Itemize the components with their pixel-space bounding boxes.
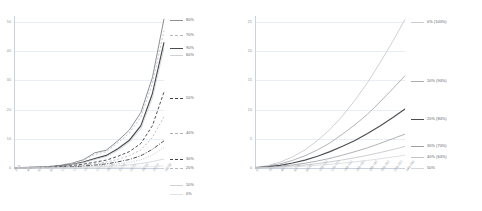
legend-swatch-icon xyxy=(170,168,183,169)
legend-item[interactable]: 30% (70%) xyxy=(411,144,447,148)
series-line xyxy=(255,109,405,168)
legend-item[interactable]: 70% xyxy=(170,33,194,37)
y-axis-tick-label: 10 xyxy=(7,137,11,141)
legend-swatch-icon xyxy=(170,194,183,195)
legend-label: 20% xyxy=(186,166,194,170)
legend-item[interactable]: 20% (80%) xyxy=(411,117,447,121)
legend-swatch-icon xyxy=(411,22,424,23)
legend-swatch-icon xyxy=(170,185,183,186)
series-line xyxy=(14,19,164,168)
legend-label: 0% xyxy=(186,192,192,196)
legend-label: 80% xyxy=(186,18,194,22)
legend-swatch-icon xyxy=(170,159,183,160)
legend-item[interactable]: 20% xyxy=(170,166,194,170)
legend-swatch-icon xyxy=(170,35,183,36)
y-axis-tick-label: 50 xyxy=(7,20,11,24)
legend-swatch-icon xyxy=(411,146,424,147)
series-layer xyxy=(255,16,405,168)
series-line xyxy=(255,76,405,168)
legend-item[interactable]: 80% xyxy=(170,18,194,22)
series-line xyxy=(14,48,164,168)
legend-item[interactable]: 90% xyxy=(170,46,194,50)
legend-swatch-icon xyxy=(411,157,424,158)
legend-label: 70% xyxy=(186,33,194,37)
legend-item[interactable]: 0% xyxy=(170,192,192,196)
legend-swatch-icon xyxy=(411,81,424,82)
legend-item[interactable]: 40% (60%) xyxy=(411,155,447,159)
legend-swatch-icon xyxy=(170,133,183,134)
y-axis-tick-label: 25 xyxy=(248,20,252,24)
y-axis-tick-label: 20 xyxy=(7,108,11,112)
series-line xyxy=(255,20,405,168)
legend-label: 10% xyxy=(186,183,194,187)
legend-item[interactable]: 10% (90%) xyxy=(411,79,447,83)
legend-item[interactable]: 30% xyxy=(170,157,194,161)
figure-root: 010203040502/134/85/78/611/1312/1219/051… xyxy=(0,0,482,211)
y-axis-tick-label: 20 xyxy=(248,49,252,53)
plot-area: 05101520250-120-2140-4160-6180-81100-101… xyxy=(255,16,405,168)
legend-label: 40% xyxy=(186,131,194,135)
legend-item[interactable]: 0% (100%) xyxy=(411,20,447,24)
legend-label: 10% (90%) xyxy=(427,79,447,83)
legend-swatch-icon xyxy=(170,98,183,99)
legend-swatch-icon xyxy=(170,48,183,49)
series-layer xyxy=(14,16,164,168)
legend-swatch-icon xyxy=(170,55,183,56)
plot-area: 010203040502/134/85/78/611/1312/1219/051… xyxy=(14,16,164,168)
y-axis-tick-label: 0 xyxy=(9,166,11,170)
legend-label: 60% xyxy=(186,53,194,57)
series-line xyxy=(14,31,164,168)
legend-label: 30% xyxy=(186,157,194,161)
legend-item[interactable]: 50% xyxy=(170,96,194,100)
y-axis-tick-label: 0 xyxy=(250,166,252,170)
legend-swatch-icon xyxy=(411,119,424,120)
legend-label: 0% (100%) xyxy=(427,20,447,24)
legend-swatch-icon xyxy=(170,20,183,21)
legend-item[interactable]: 60% xyxy=(170,53,194,57)
legend-item[interactable]: 40% xyxy=(170,131,194,135)
y-axis-tick-label: 30 xyxy=(7,78,11,82)
legend-label: 90% xyxy=(186,46,194,50)
legend-swatch-icon xyxy=(411,168,424,169)
legend-label: 40% (60%) xyxy=(427,155,447,159)
series-line xyxy=(14,42,164,168)
y-axis-tick-label: 40 xyxy=(7,49,11,53)
legend-label: 50% xyxy=(427,166,435,170)
y-axis-tick-label: 10 xyxy=(248,108,252,112)
chart-panel-left: 010203040502/134/85/78/611/1312/1219/051… xyxy=(0,0,241,211)
legend-item[interactable]: 10% xyxy=(170,183,194,187)
y-axis-tick-label: 5 xyxy=(250,137,252,141)
legend-label: 50% xyxy=(186,96,194,100)
legend-item[interactable]: 50% xyxy=(411,166,435,170)
chart-panel-right: 05101520250-120-2140-4160-6180-81100-101… xyxy=(241,0,482,211)
legend-label: 20% (80%) xyxy=(427,117,447,121)
y-axis-tick-label: 15 xyxy=(248,78,252,82)
legend-label: 30% (70%) xyxy=(427,144,447,148)
